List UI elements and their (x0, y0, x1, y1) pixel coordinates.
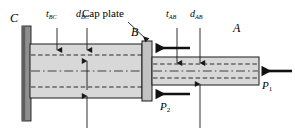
load-label-p2: P2 (160, 101, 170, 112)
point-label-b: B (131, 26, 138, 38)
point-label-c: C (10, 12, 18, 24)
p2-subscript: 2 (167, 106, 170, 113)
t-ab-subscript: AB (169, 13, 176, 20)
dimension-label-t-ab: tAB (166, 9, 176, 19)
tube-assembly-figure: C B A tBC dBC tAB dAB Cap plate P1 P2 (0, 0, 295, 128)
point-label-a: A (233, 22, 240, 34)
load-label-p1: P1 (262, 80, 272, 91)
p1-subscript: 1 (269, 85, 272, 92)
tube-ab (152, 57, 259, 85)
p2-symbol: P (160, 100, 167, 112)
dimension-label-t-bc: tBC (46, 9, 56, 19)
dimension-label-d-ab: dAB (190, 9, 202, 19)
cap-plate-label: Cap plate (82, 8, 124, 19)
t-bc-subscript: BC (49, 13, 57, 20)
d-ab-subscript: AB (195, 13, 202, 20)
p1-symbol: P (262, 79, 269, 91)
figure-canvas (0, 0, 295, 128)
cap-plate (142, 41, 152, 101)
tube-bc (30, 44, 142, 98)
